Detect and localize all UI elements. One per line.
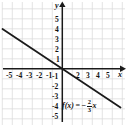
x-tick-label-neg4: -4 (16, 72, 22, 80)
x-tick-label-neg3: -3 (26, 72, 32, 80)
y-tick-label-neg3: -3 (52, 93, 58, 101)
y-tick-label-neg1: -1 (52, 73, 58, 81)
y-axis-label: y (55, 2, 59, 10)
equation-variable: x (92, 102, 96, 110)
x-tick-label-neg5: -5 (6, 72, 12, 80)
x-tick-label-3: 3 (86, 72, 90, 80)
equation-minus-sign: − (82, 102, 87, 110)
y-tick-label-4: 4 (55, 26, 59, 34)
y-tick-label-neg2: -2 (52, 83, 58, 91)
x-tick-label-2: 2 (76, 72, 80, 80)
y-tick-label-3: 3 (55, 36, 59, 44)
graph-figure: -5 -4 -3 -2 -1 2 3 4 5 5 4 3 2 1 -1 -2 -… (0, 0, 127, 127)
x-tick-label-neg2: -2 (36, 72, 42, 80)
y-tick-label-5: 5 (55, 16, 59, 24)
x-tick-label-5: 5 (106, 72, 110, 80)
y-tick-label-2: 2 (55, 46, 59, 54)
y-tick-label-neg4: -4 (52, 103, 58, 111)
y-tick-label-neg5: -5 (52, 113, 58, 121)
x-tick-label-4: 4 (96, 72, 100, 80)
function-equation-label: f(x) = − 2 3 x (62, 99, 96, 113)
equation-lhs: f(x) (62, 102, 74, 110)
y-tick-label-1: 1 (56, 56, 60, 64)
x-axis-label: x (118, 71, 122, 79)
equation-equals-sign: = (76, 102, 81, 110)
